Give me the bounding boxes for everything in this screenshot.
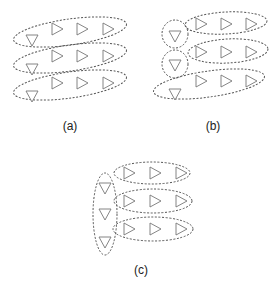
panel-b (152, 10, 269, 105)
right-triangle-icon (77, 77, 88, 89)
right-triangle-icon (52, 23, 63, 35)
right-triangle-icon (150, 195, 161, 207)
down-triangle-icon (26, 64, 38, 75)
panel-a (12, 11, 129, 106)
right-triangle-icon (124, 223, 135, 235)
right-triangle-icon (196, 46, 207, 58)
grouping-diagram (0, 0, 280, 288)
down-triangle-icon (26, 91, 38, 102)
right-triangle-icon (221, 46, 232, 58)
right-triangle-icon (246, 75, 257, 87)
right-triangle-icon (246, 18, 257, 30)
right-triangle-icon (77, 23, 88, 35)
right-triangle-icon (77, 50, 88, 62)
down-triangle-icon (169, 60, 181, 71)
right-triangle-icon (124, 167, 135, 179)
right-triangle-icon (176, 167, 187, 179)
down-triangle-icon (99, 237, 111, 248)
down-triangle-icon (99, 209, 111, 220)
down-triangle-icon (99, 183, 111, 194)
down-triangle-icon (169, 31, 181, 42)
right-triangle-icon (196, 75, 207, 87)
right-triangle-icon (103, 23, 114, 35)
group-ellipse (12, 11, 129, 53)
right-triangle-icon (221, 75, 232, 87)
right-triangle-icon (176, 195, 187, 207)
right-triangle-icon (176, 223, 187, 235)
right-triangle-icon (246, 46, 257, 58)
caption-b: (b) (193, 119, 233, 133)
down-triangle-icon (169, 89, 181, 100)
right-triangle-icon (124, 195, 135, 207)
right-triangle-icon (150, 167, 161, 179)
right-triangle-icon (103, 50, 114, 62)
right-triangle-icon (52, 50, 63, 62)
right-triangle-icon (196, 18, 207, 30)
right-triangle-icon (52, 77, 63, 89)
right-triangle-icon (103, 77, 114, 89)
caption-c: (c) (121, 263, 161, 277)
down-triangle-icon (26, 35, 38, 46)
panel-c (93, 162, 193, 255)
right-triangle-icon (150, 223, 161, 235)
caption-a: (a) (50, 119, 90, 133)
right-triangle-icon (221, 18, 232, 30)
